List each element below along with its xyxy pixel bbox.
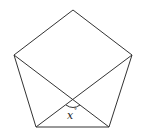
diagonal-upper-left-to-lower-right xyxy=(14,55,109,127)
angle-arc xyxy=(66,105,80,108)
diagonal-upper-right-to-lower-left xyxy=(36,55,132,127)
pentagon-diagram: x ° xyxy=(0,0,143,136)
angle-variable: x xyxy=(67,109,74,122)
angle-label: x xyxy=(67,109,74,122)
degree-symbol: ° xyxy=(74,106,77,113)
